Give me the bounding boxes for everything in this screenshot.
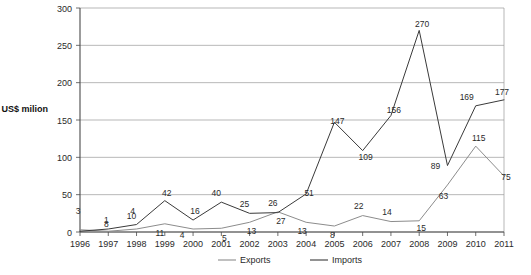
x-tick-label-1997: 1997 [98,239,118,249]
x-tick-label-2000: 2000 [183,239,203,249]
point-label-exports-2010: 115 [472,133,486,143]
y-axis-tick-labels: 050100150200250300 [57,4,72,238]
x-tick-label-2004: 2004 [296,239,316,249]
legend-label-imports: Imports [332,255,363,265]
point-label-exports-2006: 22 [354,201,364,211]
point-label-imports-1998: 10 [127,211,137,221]
point-label-imports-2000: 16 [190,206,200,216]
point-label-exports-2002: 13 [247,226,257,236]
axes [76,8,504,236]
point-label-imports-1999: 42 [162,188,172,198]
x-tick-label-2006: 2006 [353,239,373,249]
x-tick-label-2011: 2011 [494,239,513,249]
x-tick-label-2005: 2005 [324,239,344,249]
y-tick-label-100: 100 [57,153,72,163]
point-label-exports-1999: 11 [155,228,164,238]
point-label-exports-2000: 4 [180,230,185,240]
point-label-imports-2003: 26 [268,198,278,208]
point-label-imports-2011: 177 [495,87,509,97]
y-tick-label-0: 0 [67,228,72,238]
point-label-imports-2007: 156 [387,105,401,115]
x-tick-label-1999: 1999 [155,239,175,249]
point-label-exports-2001: 5 [222,233,227,243]
y-axis-title: US$ milion [1,104,48,114]
x-tick-label-1996: 1996 [70,239,90,249]
point-label-imports-2009: 89 [431,161,441,171]
point-label-exports-2003: 27 [276,216,286,226]
point-label-imports-2008: 270 [415,19,429,29]
x-tick-label-2002: 2002 [240,239,260,249]
series-line-imports [80,30,504,231]
chart-container: 050100150200250300 199619971998199920002… [0,0,531,275]
point-label-imports-2004: 51 [304,188,314,198]
y-tick-label-150: 150 [57,116,72,126]
point-label-exports-2005: 8 [330,230,335,240]
data-point-labels: 3141145132713822141563115751084216402526… [76,19,511,243]
y-tick-label-250: 250 [57,41,72,51]
y-tick-label-200: 200 [57,78,72,88]
point-label-exports-2007: 14 [382,207,392,217]
legend-label-exports: Exports [240,255,271,265]
point-label-imports-2002: 25 [240,199,250,209]
point-label-imports-2010: 169 [460,92,474,102]
point-label-imports-2005: 147 [330,116,344,126]
y-tick-label-50: 50 [62,190,72,200]
x-tick-label-2007: 2007 [381,239,401,249]
point-label-exports-2009: 63 [439,191,449,201]
x-axis-tick-labels: 1996199719981999200020012002200320042005… [70,239,514,249]
chart-legend: ExportsImports [218,255,363,265]
y-tick-label-300: 300 [57,4,72,14]
x-tick-label-2009: 2009 [437,239,457,249]
x-tick-label-2003: 2003 [268,239,288,249]
x-tick-label-1998: 1998 [127,239,147,249]
point-label-imports-2001: 40 [212,188,222,198]
point-label-exports-2004: 13 [297,226,307,236]
point-label-imports-1997: 8 [104,219,109,229]
x-tick-label-2010: 2010 [466,239,486,249]
point-label-exports-2011: 75 [501,172,511,182]
point-label-imports-2006: 109 [359,152,373,162]
point-label-exports-2008: 15 [416,223,426,233]
point-label-exports-1996: 3 [76,206,81,216]
line-chart: 050100150200250300 199619971998199920002… [0,0,531,275]
data-series [80,30,504,231]
x-tick-label-2008: 2008 [409,239,429,249]
